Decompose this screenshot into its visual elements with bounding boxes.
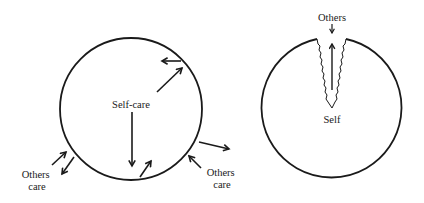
wedge-right-edge (332, 39, 346, 108)
upper-outward-arrow (157, 68, 182, 92)
self-diagram: Others Self (262, 12, 402, 177)
self-care-diagram: Self-care Others care Others care (22, 38, 238, 192)
left-incoming-arrow (52, 152, 66, 165)
others-care-label-right: Others care (207, 167, 238, 190)
wedge-left-edge (317, 39, 332, 108)
right-incoming-arrow (189, 156, 201, 168)
others-care-label-left: Others care (22, 169, 53, 192)
self-care-label: Self-care (112, 99, 150, 110)
left-outgoing-arrow (62, 157, 74, 174)
right-outgoing-arrow (199, 142, 229, 149)
diagram-canvas: Self-care Others care Others care (0, 0, 424, 203)
others-label: Others (318, 12, 346, 23)
self-label: Self (324, 114, 341, 125)
bottom-bounce-arrow (140, 161, 151, 177)
